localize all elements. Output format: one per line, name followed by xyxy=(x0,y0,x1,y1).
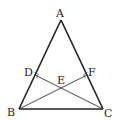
side-ab xyxy=(19,20,61,109)
label-e: E xyxy=(57,74,65,87)
label-c: C xyxy=(104,107,112,120)
label-d: D xyxy=(24,66,33,79)
label-a: A xyxy=(55,7,65,20)
label-b: B xyxy=(7,106,15,119)
side-ac xyxy=(61,20,103,109)
label-f: F xyxy=(88,66,96,79)
segment-bf xyxy=(19,75,87,109)
triangle-diagram: A B C D E F xyxy=(0,0,119,121)
segment-cd xyxy=(35,75,103,109)
